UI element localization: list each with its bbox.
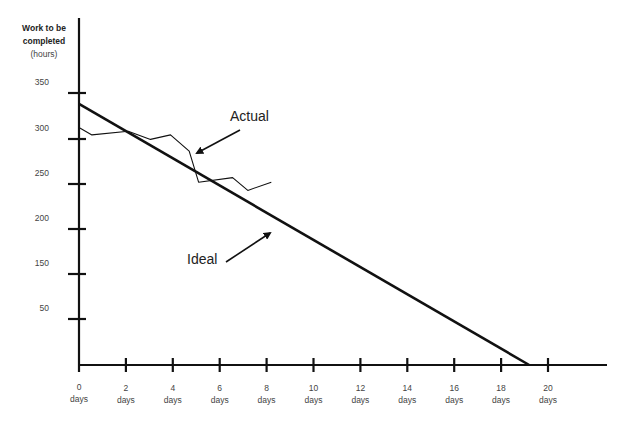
- burndown-chart: [0, 0, 635, 428]
- ideal-annotation: Ideal: [187, 251, 217, 267]
- actual-annotation: Actual: [230, 108, 269, 124]
- y-tick-label: 200: [19, 213, 49, 223]
- x-tick-label: 8days: [247, 382, 287, 406]
- x-tick-label: 4days: [153, 382, 193, 406]
- x-tick-label: 20days: [528, 382, 568, 406]
- x-tick-label: 14days: [387, 382, 427, 406]
- x-tick-label: 10days: [294, 382, 334, 406]
- y-tick-label: 150: [19, 258, 49, 268]
- x-tick-label: 12days: [340, 382, 380, 406]
- y-tick-label: 50: [19, 303, 49, 313]
- x-tick-label: 18days: [481, 382, 521, 406]
- y-tick-label: 250: [19, 168, 49, 178]
- y-tick-label: 300: [19, 123, 49, 133]
- x-tick-label: 0days: [59, 381, 99, 405]
- y-tick-label: 350: [19, 77, 49, 87]
- x-tick-label: 6days: [200, 382, 240, 406]
- actual-arrow-icon: [197, 130, 240, 153]
- axes: [68, 18, 607, 372]
- series: [79, 104, 529, 365]
- ideal-arrow-icon: [226, 233, 270, 262]
- x-tick-label: 2days: [106, 382, 146, 406]
- series-ideal-line: [79, 104, 529, 365]
- x-tick-label: 16days: [434, 382, 474, 406]
- annotation-arrows: [197, 130, 270, 262]
